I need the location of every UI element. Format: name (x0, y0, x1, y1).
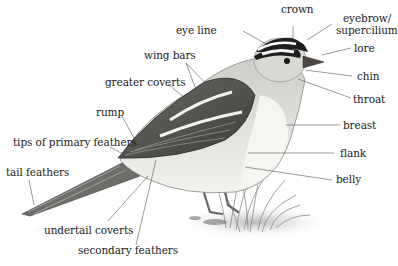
label-eyebrow-line2: supercilium (336, 25, 398, 36)
label-tips-of-primary-feathers: tips of primary feathers (13, 137, 137, 148)
label-flank: flank (340, 148, 366, 159)
label-greater-coverts: greater coverts (105, 77, 185, 88)
label-breast: breast (343, 120, 376, 131)
label-undertail-coverts: undertail coverts (44, 225, 133, 236)
label-throat: throat (353, 94, 385, 105)
label-lore: lore (354, 43, 375, 54)
label-wing-bars: wing bars (144, 50, 196, 61)
label-eyebrow-line1: eyebrow/ (343, 13, 391, 24)
label-chin: chin (357, 71, 379, 82)
label-secondary-feathers: secondary feathers (78, 245, 178, 256)
bird-head (254, 38, 324, 82)
label-eye-line: eye line (176, 25, 217, 36)
label-belly: belly (336, 174, 361, 185)
label-crown: crown (281, 4, 313, 15)
label-tail-feathers: tail feathers (6, 167, 69, 178)
label-rump: rump (96, 107, 124, 118)
